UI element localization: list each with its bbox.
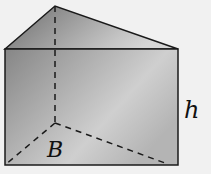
prism-diagram: B h xyxy=(0,0,211,174)
top-triangle-face xyxy=(5,6,178,49)
front-rect-face xyxy=(5,49,178,165)
height-label: h xyxy=(184,96,199,124)
base-label: B xyxy=(46,137,63,162)
prism-figure: B h xyxy=(0,0,211,174)
